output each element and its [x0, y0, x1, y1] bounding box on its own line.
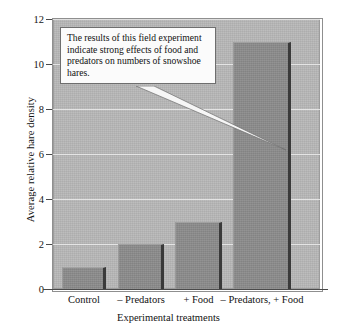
- y-axis-tick-label: 12: [0, 14, 44, 25]
- y-axis-tick-label: 0: [0, 284, 44, 295]
- y-axis-tick-label: 4: [0, 194, 44, 205]
- y-axis-tick-label: 2: [0, 239, 44, 250]
- figure-container: Average relative hare density 024681012 …: [0, 0, 337, 334]
- bar-4: [233, 42, 291, 290]
- x-axis-tick-label: + Food: [183, 294, 213, 305]
- x-axis-tick-label: – Predators: [117, 294, 165, 305]
- y-axis-tick-label: 8: [0, 104, 44, 115]
- x-axis-tick-label: – Predators, + Food: [221, 294, 304, 305]
- bar-1: [62, 267, 106, 290]
- x-axis-tick-label: Control: [68, 294, 100, 305]
- x-axis-line: [43, 289, 328, 290]
- y-axis-tick-label: 6: [0, 149, 44, 160]
- bar-2: [118, 244, 164, 289]
- annotation-callout: The results of this field experiment ind…: [60, 27, 216, 84]
- gridline: [53, 19, 320, 20]
- bar-3: [175, 222, 222, 290]
- y-axis-tick-label: 10: [0, 59, 44, 70]
- x-axis-title: Experimental treatments: [0, 312, 337, 323]
